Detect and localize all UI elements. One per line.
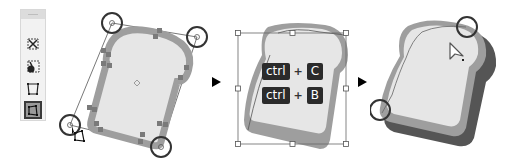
keycap-b: B	[307, 87, 323, 104]
keycap-ctrl: ctrl	[262, 63, 290, 80]
free-transform-icon	[24, 35, 42, 53]
perspective-distort-icon	[24, 80, 42, 98]
shortcut-copy: ctrl + C	[262, 63, 323, 80]
free-distort-tool[interactable]	[24, 101, 42, 119]
panel-grip[interactable]	[21, 10, 45, 19]
shortcut-paste-in-back: ctrl + B	[262, 87, 323, 104]
free-distort-icon	[26, 104, 40, 118]
plus-sign: +	[294, 65, 303, 78]
free-transform-tool[interactable]	[24, 35, 42, 53]
step-arrow-2	[358, 77, 367, 87]
keycap-c: C	[307, 63, 323, 80]
puppet-warp-icon	[24, 58, 42, 76]
tools-panel	[20, 9, 46, 121]
step2-canvas	[230, 15, 355, 155]
keycap-ctrl: ctrl	[262, 87, 290, 104]
puppet-warp-tool[interactable]	[24, 58, 42, 76]
perspective-distort-tool[interactable]	[24, 80, 42, 98]
step1-canvas	[55, 0, 215, 166]
bread-shape	[87, 22, 196, 150]
step3-canvas	[370, 10, 515, 160]
plus-sign: +	[294, 89, 303, 102]
step-arrow-1	[212, 77, 221, 87]
